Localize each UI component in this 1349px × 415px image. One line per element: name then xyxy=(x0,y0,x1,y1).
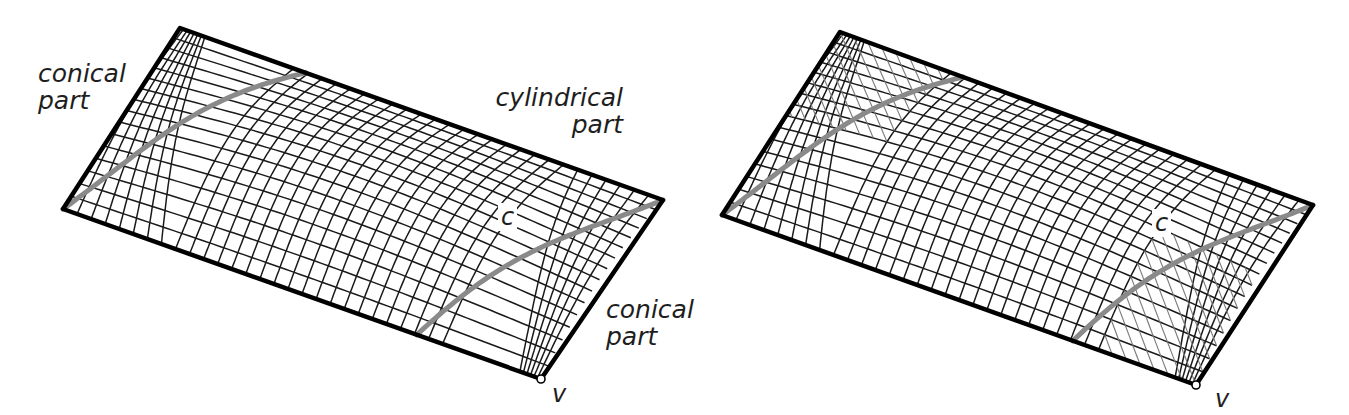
right-panel-triangle-mesh xyxy=(722,32,1313,389)
label-conical-part-bottom: conical part xyxy=(606,296,694,350)
point-label-v-right: v xyxy=(1215,385,1229,413)
point-label-v-left: v xyxy=(552,380,566,408)
point-label-c-right: c xyxy=(1152,209,1171,237)
label-cylindrical-part: cylindrical part xyxy=(475,84,623,138)
surface-mesh-figure xyxy=(0,0,1349,415)
left-panel-quad-mesh xyxy=(63,28,663,383)
point-label-c-left: c xyxy=(498,203,517,231)
label-conical-part-top: conical part xyxy=(38,60,126,114)
